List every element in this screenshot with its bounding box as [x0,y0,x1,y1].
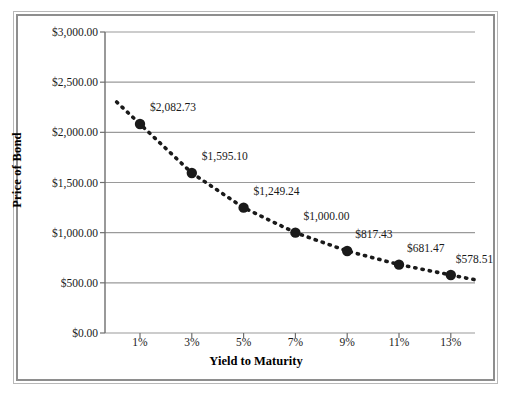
y-tick-label: $500.00 [61,277,103,289]
plot-canvas [0,0,512,400]
y-tick-label: $2,500.00 [52,76,103,88]
y-tick-label: $0.00 [72,327,103,339]
x-tick-label: 13% [440,336,461,348]
data-point-marker [290,227,300,237]
data-point-label: $2,082.73 [150,101,196,113]
gridlines-group [105,32,475,333]
x-tick-label: 11% [389,336,410,348]
data-point-marker [238,202,248,212]
data-point-marker [446,270,456,280]
data-point-label: $817.43 [355,228,392,240]
data-point-markers-group [135,119,456,280]
data-point-label: $1,249.24 [254,185,300,197]
data-point-label: $578.51 [456,253,493,265]
y-tick-label: $3,000.00 [52,26,103,38]
x-tick-label: 7% [288,336,303,348]
x-tick-label: 1% [132,336,147,348]
data-point-marker [135,119,145,129]
x-axis-title: Yield to Maturity [0,354,512,369]
x-tick-label: 3% [184,336,199,348]
data-point-label: $1,595.10 [202,150,248,162]
data-point-label: $681.47 [407,242,444,254]
data-point-marker [342,246,352,256]
data-point-label: $1,000.00 [303,210,349,222]
x-tick-label: 9% [340,336,355,348]
y-axis-title: Price of Bond [10,132,25,208]
y-tick-label: $2,000.00 [52,126,103,138]
y-tick-label: $1,000.00 [52,227,103,239]
y-tick-label: $1,500.00 [52,177,103,189]
x-tick-label: 5% [236,336,251,348]
data-point-marker [187,168,197,178]
chart-figure: $3,000.00$2,500.00$2,000.00$1,500.00$1,0… [0,0,512,400]
data-point-marker [394,259,404,269]
